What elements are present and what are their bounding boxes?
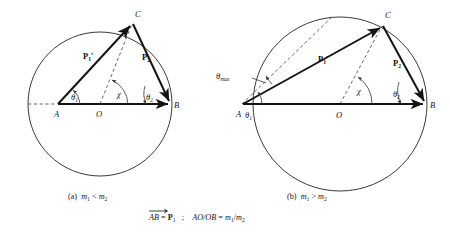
caption-panel-a: (a) m1 < m2: [68, 192, 108, 202]
panel-a-point-label-A: A: [53, 109, 60, 119]
panel-a-point-label-C: C: [135, 9, 141, 19]
panel-a-point-label-O: O: [96, 109, 102, 119]
panel-a-radius-OC-dashed: [100, 24, 132, 104]
panel-b-label-p2: P2: [393, 58, 401, 69]
panel-b-label-theta2: θ2: [393, 89, 400, 100]
formula-text: AB = P1 ; AO/OB = m1/m2: [148, 213, 245, 223]
panel-a-label-p1-prime: P1′: [83, 51, 93, 62]
panel-a: A O B C P1′ P2 θ1 χ θ2: [28, 9, 179, 176]
panel-a-label-chi: χ: [116, 89, 121, 99]
panel-b-point-label-A: A: [235, 109, 242, 119]
panel-b-leader-theta-max: [252, 78, 266, 83]
panel-b-label-theta1: θ1: [245, 110, 252, 121]
formula-line: AB = P1 ; AO/OB = m1/m2: [148, 209, 245, 223]
collision-vector-diagram: A O B C P1′ P2 θ1 χ θ2: [0, 0, 450, 237]
panel-b-label-p1-prime: P1′: [318, 54, 328, 65]
panel-b-arc-theta2: [398, 82, 401, 104]
panel-b-label-chi: χ: [356, 86, 361, 96]
panel-b-label-theta-max: θmax: [216, 71, 230, 82]
panel-a-label-p2: P2: [142, 52, 150, 63]
panel-a-vector-p2: [133, 24, 169, 101]
figure-root: A O B C P1′ P2 θ1 χ θ2: [0, 0, 450, 237]
panel-b-point-label-O: O: [336, 110, 342, 120]
panel-b-point-label-B: B: [430, 100, 435, 110]
panel-a-label-theta1: θ1: [71, 92, 78, 103]
caption-panel-b: (b) m1 > m2: [287, 192, 327, 202]
panel-b: A O B C P1′ P2 θmax θ1 χ θ2: [216, 10, 435, 191]
panel-a-point-label-B: B: [174, 100, 179, 110]
panel-b-arc-theta-max: [266, 76, 272, 84]
panel-b-point-label-C: C: [385, 10, 391, 20]
panel-a-label-theta2: θ2: [146, 92, 153, 103]
panel-b-vector-p2: [383, 26, 424, 101]
